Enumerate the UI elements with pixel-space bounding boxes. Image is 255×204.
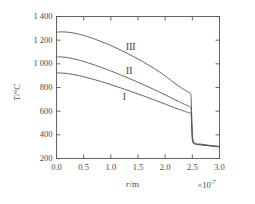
chart-figure: T/°C r/m ×10-7 2004006008001 0001 2001 4…	[0, 0, 255, 204]
y-tick-label: 400	[40, 129, 53, 139]
x-tick-label: 2.0	[153, 162, 177, 172]
curve-label-ii: II	[126, 66, 132, 76]
plot-frame	[57, 17, 220, 159]
x-axis-multiplier: ×10-7	[198, 179, 216, 190]
x-tick-label: 0.0	[45, 162, 69, 172]
y-tick-label: 800	[40, 82, 53, 92]
x-tick-label: 0.5	[72, 162, 96, 172]
x-tick-label: 2.5	[180, 162, 204, 172]
y-tick-label: 1 400	[33, 11, 52, 21]
data-curves	[57, 32, 220, 147]
x-tick-label: 1.0	[99, 162, 123, 172]
axis-ticks	[57, 17, 220, 159]
y-axis-label: T/°C	[12, 83, 22, 100]
x-tick-label: 3.0	[208, 162, 232, 172]
y-tick-label: 1 000	[33, 58, 52, 68]
plot-area	[0, 0, 255, 204]
x-axis-label: r/m	[126, 179, 139, 189]
y-tick-label: 1 200	[33, 35, 52, 45]
y-tick-label: 600	[40, 106, 53, 116]
curve-label-iii: III	[126, 42, 136, 52]
curve-label-i: I	[123, 92, 126, 102]
x-tick-label: 1.5	[126, 162, 150, 172]
